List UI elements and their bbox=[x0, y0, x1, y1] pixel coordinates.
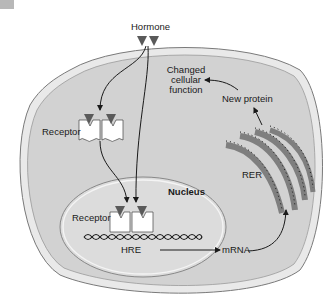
changed-function-line3: function bbox=[166, 85, 206, 95]
changed-function-label: Changed cellular function bbox=[166, 65, 206, 95]
new-protein-label: New protein bbox=[222, 94, 273, 104]
receptor-cytoplasm-label: Receptor bbox=[42, 127, 81, 137]
rer-label: RER bbox=[242, 170, 262, 180]
mrna-label: mRNA bbox=[222, 245, 250, 255]
hormone-molecules bbox=[137, 36, 159, 46]
cell-diagram bbox=[0, 0, 333, 305]
hormone-label: Hormone bbox=[131, 22, 170, 32]
nucleus-label: Nucleus bbox=[168, 187, 205, 197]
hre-label: HRE bbox=[121, 245, 141, 255]
receptor-nucleus-label: Receptor bbox=[72, 213, 111, 223]
